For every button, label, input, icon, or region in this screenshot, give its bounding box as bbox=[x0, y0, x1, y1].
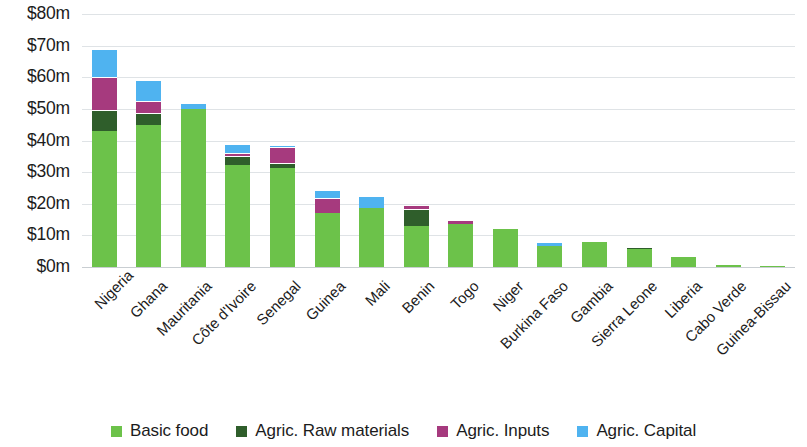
bar-segment[interactable] bbox=[270, 168, 295, 267]
bar-group[interactable] bbox=[136, 80, 161, 267]
legend-item[interactable]: Agric. Inputs bbox=[437, 421, 549, 441]
legend-swatch-icon bbox=[236, 426, 247, 437]
bar-group[interactable] bbox=[760, 266, 785, 267]
bar-group[interactable] bbox=[315, 190, 340, 267]
bar-segment[interactable] bbox=[225, 165, 250, 267]
bar-segment[interactable] bbox=[92, 49, 117, 77]
bar-segment[interactable] bbox=[404, 209, 429, 226]
y-axis: $80m$70m$60m$50m$40m$30m$20m$10m$0m bbox=[0, 0, 78, 281]
bar-segment[interactable] bbox=[315, 190, 340, 198]
bar-segment[interactable] bbox=[92, 77, 117, 110]
y-axis-tick-label: $40m bbox=[27, 132, 70, 150]
bar-segment[interactable] bbox=[493, 229, 518, 267]
bar-segment[interactable] bbox=[92, 110, 117, 131]
bar-segment[interactable] bbox=[136, 80, 161, 101]
bar-segment[interactable] bbox=[225, 144, 250, 153]
bar-group[interactable] bbox=[225, 144, 250, 267]
legend-swatch-icon bbox=[111, 426, 122, 437]
legend-label: Agric. Capital bbox=[596, 421, 696, 441]
bar-segment[interactable] bbox=[671, 257, 696, 267]
bar-group[interactable] bbox=[359, 196, 384, 267]
bar-segment[interactable] bbox=[270, 147, 295, 163]
bar-segment[interactable] bbox=[582, 242, 607, 267]
y-axis-tick-label: $50m bbox=[27, 100, 70, 118]
bar-segment[interactable] bbox=[448, 224, 473, 267]
bar-group[interactable] bbox=[448, 220, 473, 267]
legend-swatch-icon bbox=[437, 426, 448, 437]
bar-segment[interactable] bbox=[136, 125, 161, 267]
legend-item[interactable]: Agric. Raw materials bbox=[236, 421, 409, 441]
bar-segment[interactable] bbox=[760, 266, 785, 267]
legend-item[interactable]: Basic food bbox=[111, 421, 208, 441]
legend-label: Agric. Raw materials bbox=[255, 421, 409, 441]
y-axis-tick-label: $30m bbox=[27, 163, 70, 181]
bar-group[interactable] bbox=[582, 242, 607, 267]
bar-segment[interactable] bbox=[136, 113, 161, 125]
bar-segment[interactable] bbox=[537, 246, 562, 267]
y-axis-tick-label: $60m bbox=[27, 68, 70, 86]
bar-segment[interactable] bbox=[315, 213, 340, 267]
y-axis-tick-label: $0m bbox=[37, 258, 70, 276]
bar-segment[interactable] bbox=[627, 249, 652, 267]
legend-label: Basic food bbox=[130, 421, 208, 441]
bar-segment[interactable] bbox=[225, 156, 250, 165]
bar-segment[interactable] bbox=[716, 265, 741, 267]
bar-group[interactable] bbox=[404, 205, 429, 267]
bar-group[interactable] bbox=[181, 103, 206, 267]
y-axis-tick-label: $70m bbox=[27, 37, 70, 55]
legend-item[interactable]: Agric. Capital bbox=[577, 421, 696, 441]
legend-swatch-icon bbox=[577, 426, 588, 437]
bar-group[interactable] bbox=[671, 257, 696, 267]
bar-segment[interactable] bbox=[315, 198, 340, 213]
stacked-bar-chart: $80m$70m$60m$50m$40m$30m$20m$10m$0m Nige… bbox=[0, 0, 807, 447]
y-axis-tick-label: $80m bbox=[27, 5, 70, 23]
bars-layer bbox=[82, 14, 795, 267]
y-axis-tick-label: $20m bbox=[27, 195, 70, 213]
bar-segment[interactable] bbox=[404, 226, 429, 267]
chart-legend: Basic foodAgric. Raw materialsAgric. Inp… bbox=[0, 418, 807, 444]
bar-group[interactable] bbox=[493, 228, 518, 267]
y-axis-tick-label: $10m bbox=[27, 226, 70, 244]
bar-segment[interactable] bbox=[92, 131, 117, 267]
bar-group[interactable] bbox=[270, 145, 295, 267]
bar-group[interactable] bbox=[537, 242, 562, 267]
bar-group[interactable] bbox=[716, 265, 741, 267]
bar-segment[interactable] bbox=[136, 101, 161, 113]
bar-group[interactable] bbox=[627, 245, 652, 267]
bar-segment[interactable] bbox=[359, 196, 384, 208]
x-axis-tick-label: Nigeria bbox=[91, 278, 124, 311]
x-axis-labels: NigeriaGhanaMauritaniaCôte d'IvoireSeneg… bbox=[82, 268, 795, 378]
bar-segment[interactable] bbox=[359, 208, 384, 267]
bar-group[interactable] bbox=[92, 49, 117, 267]
legend-label: Agric. Inputs bbox=[456, 421, 549, 441]
bar-segment[interactable] bbox=[181, 109, 206, 267]
